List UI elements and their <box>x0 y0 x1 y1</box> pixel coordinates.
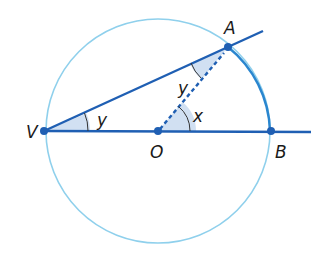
label-b: B <box>275 142 287 162</box>
point-o <box>154 127 162 135</box>
label-v: V <box>26 122 39 142</box>
label-a: A <box>223 18 236 38</box>
arc-ab <box>228 47 270 131</box>
angle-o-shade <box>158 102 196 131</box>
circle-angle-diagram: V O A B y y x <box>0 0 328 260</box>
angle-a-shade <box>190 47 228 80</box>
point-v <box>40 127 48 135</box>
angle-label-o: x <box>192 106 204 126</box>
label-o: O <box>150 142 163 162</box>
angle-label-a: y <box>177 78 189 98</box>
point-a <box>224 43 232 51</box>
angle-label-v: y <box>96 110 108 130</box>
point-b <box>267 127 275 135</box>
